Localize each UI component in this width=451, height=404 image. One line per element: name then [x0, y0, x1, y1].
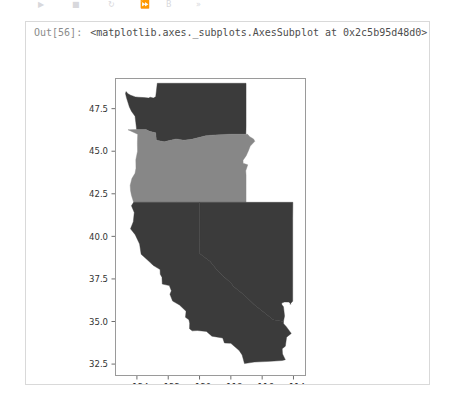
y-tick-label: 40.0	[89, 232, 108, 242]
output-prompt-label: Out[56]:	[34, 27, 82, 38]
x-axis-ticks: −124−122−120−118−116−114	[125, 376, 305, 384]
x-tick-label: −118	[219, 382, 242, 384]
y-tick-label: 45.0	[89, 146, 108, 156]
matplotlib-figure: −124−122−120−118−116−114 32.535.037.540.…	[26, 42, 429, 384]
run-icon[interactable]: ▶	[38, 0, 44, 10]
map-region-oregon	[128, 129, 255, 202]
x-tick-label: −114	[282, 382, 305, 384]
x-tick-label: −124	[125, 382, 148, 384]
y-axis-ticks: 32.535.037.540.042.545.047.5	[89, 104, 115, 369]
stop-icon[interactable]: ■	[72, 0, 80, 10]
x-tick-label: −122	[157, 382, 180, 384]
output-prompt-row: Out[56]: <matplotlib.axes._subplots.Axes…	[26, 22, 429, 42]
y-tick-label: 37.5	[89, 274, 108, 284]
notebook-output-cell: Out[56]: <matplotlib.axes._subplots.Axes…	[25, 21, 430, 385]
x-tick-label: −116	[250, 382, 273, 384]
x-tick-label: −120	[188, 382, 211, 384]
y-tick-label: 32.5	[89, 359, 108, 369]
map-plot: −124−122−120−118−116−114 32.535.037.540.…	[26, 42, 429, 384]
more-icon[interactable]: »	[196, 0, 201, 10]
y-tick-label: 42.5	[89, 189, 108, 199]
save-icon[interactable]: ὚B	[166, 0, 172, 10]
notebook-toolbar: ▶■↻⏩὚B»	[0, 0, 451, 13]
restart-icon[interactable]: ↻	[108, 0, 115, 10]
output-repr-text: <matplotlib.axes._subplots.AxesSubplot a…	[90, 27, 427, 38]
y-tick-label: 47.5	[89, 104, 108, 114]
map-regions-layer	[125, 83, 292, 363]
fastforward-icon[interactable]: ⏩	[140, 0, 150, 10]
y-tick-label: 35.0	[89, 317, 108, 327]
